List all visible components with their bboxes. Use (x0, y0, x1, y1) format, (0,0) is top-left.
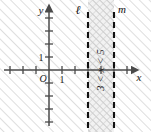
line-m-label: m (118, 3, 126, 15)
x-unit-label: 1 (60, 74, 65, 85)
origin-label: O (39, 73, 46, 84)
y-unit-label: 1 (39, 52, 44, 63)
coordinate-plane-figure: ℓ m y x O 1 1 3 < x < 5 (0, 0, 151, 132)
y-axis-label: y (38, 4, 44, 16)
line-ell-label: ℓ (76, 3, 81, 17)
diagram-canvas: ℓ m y x O 1 1 3 < x < 5 (0, 0, 151, 132)
x-axis-label: x (136, 71, 142, 83)
inequality-label: 3 < x < 5 (94, 49, 106, 92)
